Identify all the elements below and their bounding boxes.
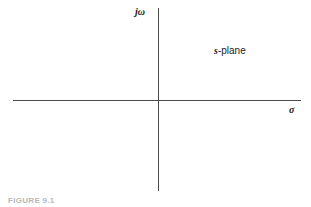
real-axis-label: σ <box>289 105 294 115</box>
imaginary-axis-line <box>158 8 159 191</box>
s-plane-label: s-plane <box>214 46 246 56</box>
imaginary-axis-label: jω <box>135 7 145 17</box>
s-plane-figure: jω σ s-plane FIGURE 9.1 <box>0 0 311 207</box>
s-plane-suffix: -plane <box>218 45 246 56</box>
real-axis-line <box>13 100 301 101</box>
figure-caption: FIGURE 9.1 <box>8 197 55 207</box>
